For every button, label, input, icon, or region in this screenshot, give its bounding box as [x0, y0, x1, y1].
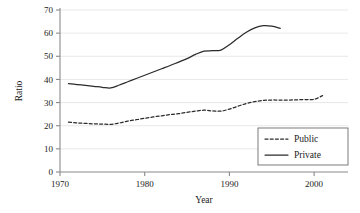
y-tick-label: 60	[44, 28, 54, 38]
legend-label-public: Public	[294, 134, 318, 144]
legend-label-private: Private	[294, 150, 321, 160]
y-tick-label: 20	[44, 121, 54, 131]
y-tick-label: 30	[44, 98, 54, 108]
x-tick-label: 1990	[220, 179, 239, 189]
x-tick-label: 2000	[305, 179, 324, 189]
y-tick-label: 50	[44, 51, 54, 61]
y-tick-label: 10	[44, 144, 54, 154]
series-line-public	[68, 96, 322, 125]
series-line-private	[68, 26, 280, 88]
y-axis-title: Ratio	[14, 80, 24, 101]
x-tick-label: 1980	[136, 179, 155, 189]
x-tick-label: 1970	[51, 179, 70, 189]
line-chart: 0102030405060701970198019902000YearRatio…	[0, 0, 360, 213]
y-tick-label: 70	[44, 5, 54, 15]
chart-container: 0102030405060701970198019902000YearRatio…	[0, 0, 360, 213]
x-axis-title: Year	[195, 195, 213, 205]
y-tick-label: 0	[49, 167, 54, 177]
y-tick-label: 40	[44, 75, 54, 85]
